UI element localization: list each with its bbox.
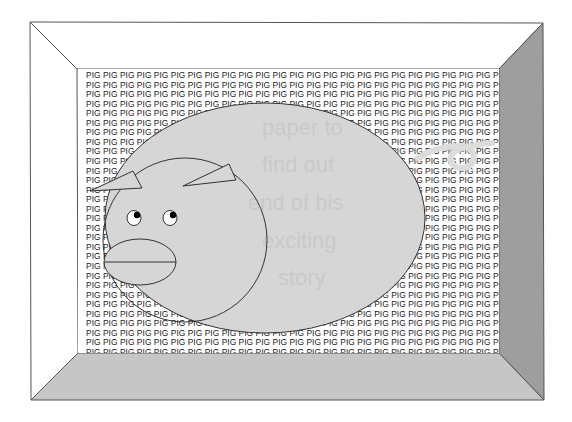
ghost-text-line: paper to [262,115,343,140]
pig-left-pupil [134,212,140,218]
ghost-text-line: story [278,265,326,290]
pig-right-pupil [170,212,176,218]
pig-in-box-scene: PIG PIG PIG PIG PIG PIG PIG PIG PIG PIG … [0,0,572,422]
ghost-text-line: find out [262,152,334,177]
pig-left-ear [90,171,142,191]
ghost-text-line: exciting [262,228,337,253]
pig-tail [418,143,492,168]
pig-graphic: paper tofind outend of hisexcitingstory [0,0,572,422]
